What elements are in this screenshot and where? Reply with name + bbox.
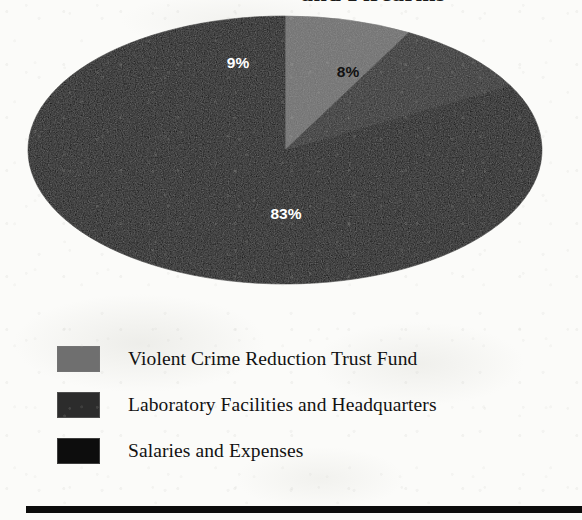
page-title-text: and Firearms (0, 0, 582, 7)
pie-slice-label-salaries-and-expenses: 83% (270, 205, 301, 222)
legend-item-violent-crime-reduction-trust-fund: Violent Crime Reduction Trust Fund (57, 336, 527, 382)
legend-swatch-violent-crime-reduction-trust-fund (57, 346, 100, 372)
legend-item-laboratory-facilities-and-headquarters: Laboratory Facilities and Headquarters (57, 382, 527, 428)
chart-legend: Violent Crime Reduction Trust Fund Labor… (57, 336, 527, 474)
page-title-cropped: and Firearms (0, 0, 582, 13)
legend-item-salaries-and-expenses: Salaries and Expenses (57, 428, 527, 474)
legend-label-violent-crime-reduction-trust-fund: Violent Crime Reduction Trust Fund (128, 348, 417, 370)
legend-label-laboratory-facilities-and-headquarters: Laboratory Facilities and Headquarters (128, 394, 437, 416)
pie-slice-label-violent-crime-reduction-trust-fund: 8% (337, 63, 360, 80)
legend-swatch-laboratory-facilities-and-headquarters (57, 392, 100, 418)
legend-label-salaries-and-expenses: Salaries and Expenses (128, 440, 303, 462)
legend-swatch-salaries-and-expenses (57, 438, 100, 464)
pie-slice-group (28, 16, 542, 284)
footer-rule (26, 506, 582, 513)
pie-chart-svg: 8%9%83% (0, 14, 582, 324)
pie-slice-label-laboratory-facilities-and-headquarters: 9% (227, 54, 250, 71)
pie-chart: 8%9%83% (0, 14, 582, 324)
